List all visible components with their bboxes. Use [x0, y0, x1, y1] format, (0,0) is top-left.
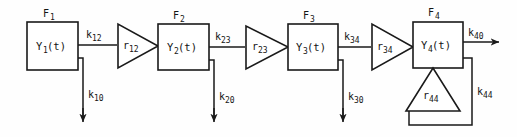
flux-k40-group[interactable]: k 40 — [463, 27, 499, 42]
compartment-3-label: F — [303, 10, 309, 21]
flux-k44-label-sub: 44 — [483, 91, 493, 100]
diagram-svg: F 1 Y 1 (t) k 12 k 10 r 12 F — [0, 0, 517, 137]
gain-r12-label-sub: 12 — [129, 45, 139, 54]
compartment-2-label-sub: 2 — [180, 15, 185, 24]
block-diagram-canvas: F 1 Y 1 (t) k 12 k 10 r 12 F — [0, 0, 517, 137]
flux-k10-label-sub: 10 — [94, 94, 104, 103]
compartment-2-label: F — [173, 10, 179, 21]
gain-r23-group[interactable]: r 23 — [246, 26, 288, 69]
flux-k10-group[interactable]: k 10 — [78, 58, 104, 122]
compartment-3-label-sub: 3 — [310, 15, 315, 24]
flux-k20-group[interactable]: k 20 — [209, 60, 235, 122]
flux-k40-label-sub: 40 — [474, 32, 484, 41]
gain-r44-label-sub: 44 — [429, 95, 439, 104]
gain-r12-group[interactable]: r 12 — [118, 24, 158, 68]
gain-r44-group[interactable]: r 44 — [406, 68, 460, 111]
compartment-4-state-arg: (t) — [432, 39, 451, 51]
gain-r44-triangle[interactable] — [406, 68, 460, 111]
compartment-2-state-arg: (t) — [178, 41, 197, 53]
gain-r34-label-sub: 34 — [383, 46, 393, 55]
compartment-1-state: Y — [36, 40, 43, 52]
compartment-3-state: Y — [296, 41, 303, 53]
gain-r34-group[interactable]: r 34 — [372, 24, 413, 70]
compartment-4-label-sub: 4 — [435, 12, 440, 21]
compartment-1-label-sub: 1 — [50, 13, 55, 22]
flux-k30-label-sub: 30 — [354, 96, 364, 105]
flux-k20-label-sub: 20 — [225, 96, 235, 105]
compartment-3-group[interactable]: F 3 Y 3 (t) — [288, 10, 338, 70]
compartment-2-group[interactable]: F 2 Y 2 (t) — [158, 10, 209, 70]
flux-k12-label-sub: 12 — [92, 34, 102, 43]
compartment-3-state-arg: (t) — [307, 41, 326, 53]
flux-k34-group[interactable]: k 34 — [338, 31, 371, 47]
flux-k30-group[interactable]: k 30 — [338, 60, 364, 122]
flux-k23-group[interactable]: k 23 — [209, 31, 245, 47]
compartment-4-group[interactable]: F 4 Y 4 (t) — [413, 7, 463, 68]
compartment-1-group[interactable]: F 1 Y 1 (t) — [27, 8, 78, 70]
compartment-1-state-arg: (t) — [47, 40, 66, 52]
compartment-4-state: Y — [421, 39, 428, 51]
flux-k34-label-sub: 34 — [350, 36, 360, 45]
gain-r23-label-sub: 23 — [258, 46, 268, 55]
compartment-4-label: F — [428, 7, 434, 18]
flux-k23-label-sub: 23 — [221, 36, 231, 45]
compartment-1-label: F — [43, 8, 49, 19]
compartment-2-state: Y — [167, 41, 174, 53]
flux-k12-group[interactable]: k 12 — [78, 29, 117, 45]
